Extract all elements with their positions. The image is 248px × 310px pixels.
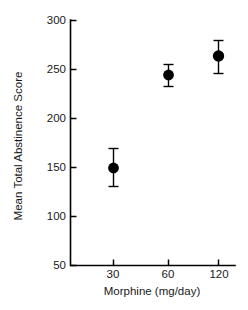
x-tick-label-30: 30 [107,268,120,280]
y-tick-label-100: 100 [47,210,66,222]
x-tick-label-120: 120 [209,268,228,280]
data-point-30 [108,149,119,187]
marker-60 [163,70,174,81]
data-point-120 [213,41,224,74]
y-tick-label-50: 50 [53,259,66,271]
scatter-plot-with-error-bars: 300 250 200 150 100 50 30 60 120 Morphin… [0,0,248,310]
data-point-60 [163,65,174,87]
chart-figure: 300 250 200 150 100 50 30 60 120 Morphin… [0,0,248,310]
marker-30 [108,163,119,174]
x-tick-label-60: 60 [162,268,175,280]
y-tick-label-250: 250 [47,63,66,75]
x-axis-title: Morphine (mg/day) [104,285,201,297]
y-tick-label-150: 150 [47,161,66,173]
plot-axes [71,20,236,266]
y-tick-label-200: 200 [47,112,66,124]
y-axis-ticks [71,21,77,266]
x-axis-ticks [114,260,219,266]
y-tick-label-300: 300 [47,14,66,26]
y-axis-title: Mean Total Abstinence Score [12,72,24,221]
marker-120 [213,50,224,61]
